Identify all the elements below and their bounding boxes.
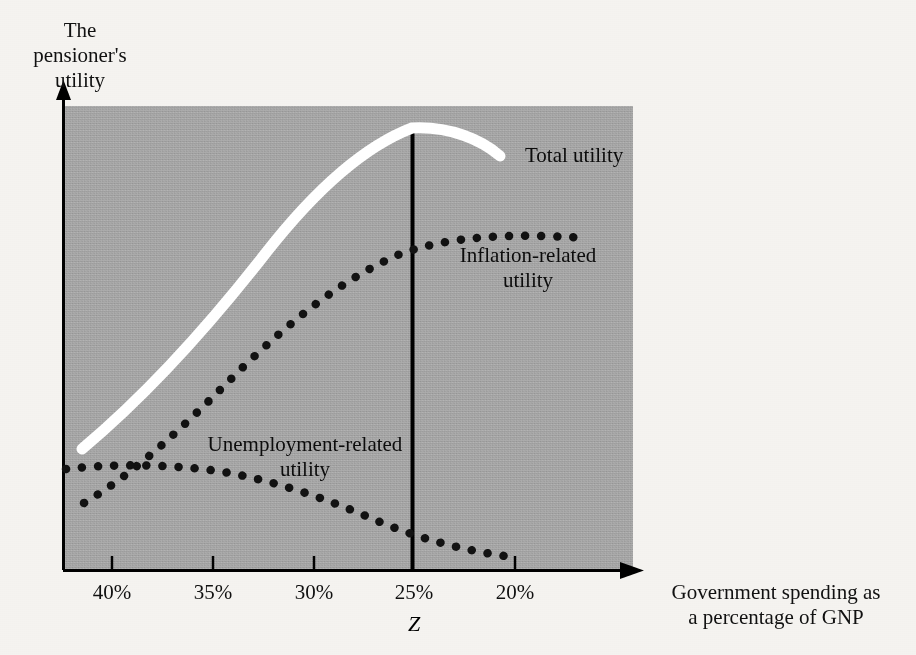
y-axis-title: The pensioner's utility: [0, 18, 160, 93]
x-tick-label-30: 30%: [274, 580, 354, 605]
x-axis-title: Government spending as a percentage of G…: [636, 580, 916, 630]
curve-label-unemployment-utility: Unemployment-related utility: [160, 432, 450, 482]
plot-area-background: [63, 106, 633, 569]
chart-figure: [0, 0, 916, 655]
x-tick-label-20: 20%: [475, 580, 555, 605]
x-tick-label-40: 40%: [72, 580, 152, 605]
x-tick-label-35: 35%: [173, 580, 253, 605]
x-tick-label-25: 25%: [374, 580, 454, 605]
z-marker-label: Z: [384, 611, 444, 637]
curve-label-inflation-utility: Inflation-related utility: [418, 243, 638, 293]
curve-label-total-utility: Total utility: [525, 143, 705, 168]
chart-canvas: [0, 0, 916, 655]
